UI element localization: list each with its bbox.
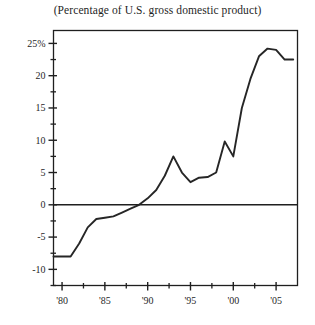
y-axis-tick-label: 20 [36,70,46,81]
y-axis-tick-label: 0 [41,199,46,210]
x-axis-tick-label: '95 [185,295,197,306]
y-axis-tick-label: -10 [32,264,45,275]
plot-frame [54,31,298,286]
x-axis-tick-label: '90 [142,295,154,306]
x-axis-tick-label: '80 [56,295,68,306]
line-chart-plot: 25%20151050-5-10 '80'85'90'95'00'05 [0,0,315,325]
x-axis-tick-label: '85 [99,295,111,306]
plot-border [54,31,298,286]
x-axis-tick-label: '05 [270,295,282,306]
y-axis-tick-label: 25% [27,38,45,49]
x-axis-tick-label: '00 [227,295,239,306]
y-axis: 25%20151050-5-10 [27,38,57,286]
y-axis-tick-label: 5 [41,167,46,178]
y-axis-tick-label: -5 [37,231,45,242]
y-axis-tick-label: 15 [36,102,46,113]
y-axis-tick-label: 10 [36,135,46,146]
chart-figure: (Percentage of U.S. gross domestic produ… [0,0,315,325]
